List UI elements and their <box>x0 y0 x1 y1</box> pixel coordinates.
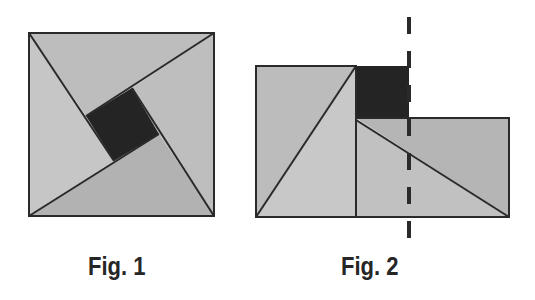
figures-canvas <box>0 0 535 300</box>
figure-2 <box>256 17 509 242</box>
fig2-dark-square <box>356 66 409 118</box>
fig1-caption: Fig. 1 <box>88 252 145 281</box>
figure-1 <box>29 33 214 216</box>
fig2-caption: Fig. 2 <box>341 252 398 281</box>
